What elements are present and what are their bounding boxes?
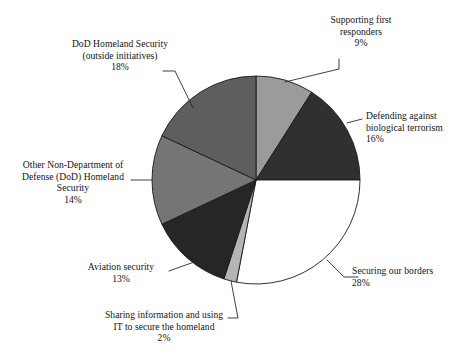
pie-slice-securing-our-borders[interactable]: [237, 180, 360, 284]
pie-label-line: Securing our borders: [352, 265, 464, 277]
pie-label-percent: 2%: [76, 332, 252, 344]
pie-label-percent: 9%: [302, 37, 420, 49]
pie-label-line: (outside initiatives): [46, 50, 194, 62]
pie-label-supporting-first-responders: Supporting first responders 9%: [302, 14, 420, 49]
pie-label-percent: 16%: [366, 133, 466, 145]
leader-line-supporting-first-responders: [285, 59, 339, 82]
pie-label-line: responders: [302, 26, 420, 38]
pie-label-line: Aviation security: [66, 261, 176, 273]
pie-label-sharing-information-it: Sharing information and using IT to secu…: [76, 309, 252, 344]
pie-label-line: Supporting first: [302, 14, 420, 26]
pie-label-line: Other Non-Department of: [4, 159, 142, 171]
pie-label-line: Defense (DoD) Homeland: [4, 171, 142, 183]
pie-label-dod-homeland-security-outside: DoD Homeland Security (outside initiativ…: [46, 38, 194, 73]
pie-label-line: biological terrorism: [366, 122, 466, 134]
pie-label-line: Defending against: [366, 110, 466, 122]
pie-label-defending-biological-terrorism: Defending against biological terrorism 1…: [366, 110, 466, 145]
leader-line-defending-biological-terrorism: [347, 119, 362, 123]
pie-label-percent: 14%: [4, 194, 142, 206]
pie-label-line: Sharing information and using: [76, 309, 252, 321]
pie-label-aviation-security: Aviation security 13%: [66, 261, 176, 284]
pie-label-other-non-dod-homeland-security: Other Non-Department of Defense (DoD) Ho…: [4, 159, 142, 205]
pie-label-percent: 18%: [46, 61, 194, 73]
pie-label-securing-our-borders: Securing our borders 28%: [352, 265, 464, 288]
pie-chart-figure: Supporting first responders 9% Defending…: [0, 0, 466, 363]
pie-label-line: Security: [4, 182, 142, 194]
pie-label-line: IT to secure the homeland: [76, 321, 252, 333]
pie-label-percent: 13%: [66, 273, 176, 285]
pie-label-percent: 28%: [352, 277, 464, 289]
pie-label-line: DoD Homeland Security: [46, 38, 194, 50]
